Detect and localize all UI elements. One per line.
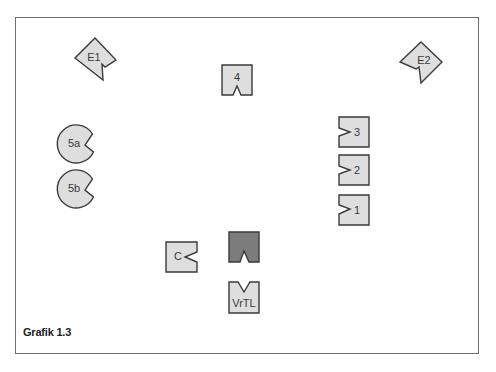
node-label-1: 1 [354, 204, 360, 216]
node-2: 2 [339, 155, 369, 185]
node-vrtl: VrTL [229, 282, 259, 313]
node-5a: 5a [57, 125, 93, 163]
node-dark [229, 232, 259, 262]
node-3: 3 [339, 117, 369, 147]
node-1: 1 [339, 195, 369, 225]
node-label-5b: 5b [68, 182, 80, 194]
node-label-5a: 5a [68, 137, 81, 149]
node-label-vrtl: VrTL [232, 297, 255, 309]
square-shape-dark [229, 232, 259, 262]
node-label-4: 4 [234, 71, 240, 83]
node-label-2: 2 [354, 164, 360, 176]
node-e2: E2 [400, 42, 442, 83]
node-e1: E1 [75, 38, 116, 80]
node-5b: 5b [57, 170, 93, 208]
diagram-canvas: E1 E2 4 5a 5b 3 2 1 C [0, 0, 496, 372]
node-label-3: 3 [354, 126, 360, 138]
node-label-e1: E1 [87, 51, 100, 63]
node-label-c: C [174, 250, 182, 262]
node-c: C [166, 242, 197, 272]
node-4: 4 [222, 65, 252, 95]
figure-caption: Grafik 1.3 [23, 326, 71, 338]
node-label-e2: E2 [417, 54, 430, 66]
